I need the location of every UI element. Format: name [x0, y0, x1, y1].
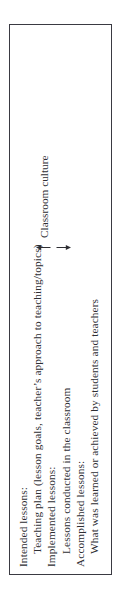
- line-what-was-learned-detail: What was learned or achieved by students…: [87, 31, 101, 567]
- classroom-culture-annotation: Classroom culture: [36, 108, 86, 258]
- classroom-culture-label: Classroom culture: [38, 155, 51, 238]
- arrow-down-icon: [56, 242, 71, 253]
- arrow-up-icon: [36, 242, 51, 253]
- figure-border-box: Intended lessons: Teaching plan (lesson …: [9, 24, 112, 575]
- line-intended-lessons-heading: Intended lessons:: [16, 31, 30, 567]
- figure-page: Intended lessons: Teaching plan (lesson …: [0, 0, 122, 590]
- rotated-figure-stage: Intended lessons: Teaching plan (lesson …: [9, 24, 112, 575]
